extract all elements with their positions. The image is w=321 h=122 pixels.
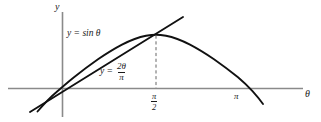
line-curve-fraction: 2θ π — [116, 62, 127, 82]
half-pi-fraction: π 2 — [151, 92, 157, 111]
sine-vs-line-figure: y θ y = sin θ y = 2θ π π 2 π — [0, 0, 321, 122]
half-pi-numerator: π — [151, 92, 157, 101]
sine-curve-label: y = sin θ — [67, 29, 101, 39]
plot-canvas — [0, 0, 321, 122]
x-tick-label-half-pi: π 2 — [150, 92, 158, 111]
line-curve-label-equals: y = — [100, 67, 113, 77]
line-curve-denominator: π — [118, 72, 125, 83]
line-curve-numerator: 2θ — [116, 62, 127, 72]
x-tick-label-pi: π — [234, 92, 239, 101]
half-pi-denominator: 2 — [151, 101, 157, 111]
theta-axis-label: θ — [305, 89, 310, 99]
y-axis-label: y — [55, 2, 59, 12]
line-curve-label: y = 2θ π — [100, 62, 128, 82]
